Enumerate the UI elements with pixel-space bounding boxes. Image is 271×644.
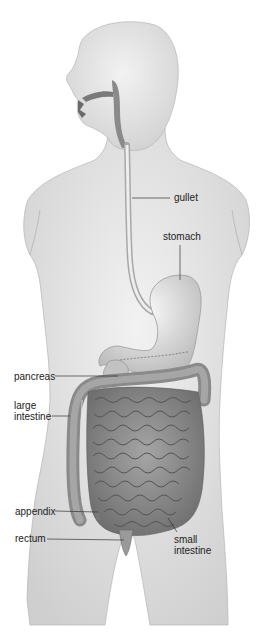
label-gullet: gullet	[174, 192, 198, 203]
label-stomach: stomach	[163, 231, 201, 242]
digestive-system-diagram	[0, 0, 271, 644]
label-rectum: rectum	[15, 533, 46, 544]
label-large-intestine: large intestine	[14, 400, 51, 422]
head	[67, 22, 179, 151]
label-small-intestine: small intestine	[174, 534, 211, 556]
label-pancreas: pancreas	[14, 371, 55, 382]
label-appendix: appendix	[15, 506, 56, 517]
small-intestine-organ	[87, 387, 205, 536]
